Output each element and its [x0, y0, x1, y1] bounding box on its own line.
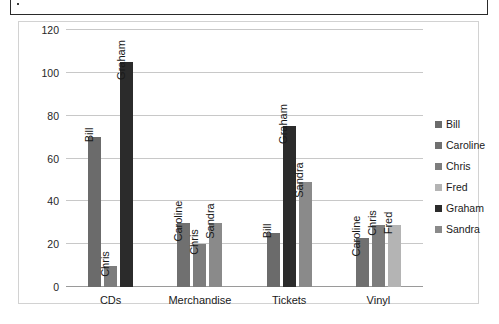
scan-artifact-box — [10, 0, 488, 15]
legend-item-fred[interactable]: Fred — [435, 177, 497, 198]
bar-label-cds-bill: Bill — [84, 128, 95, 143]
bar-label-vinyl-caroline: Caroline — [351, 215, 362, 256]
bar-label-vinyl-chris: Chris — [367, 210, 378, 236]
category-label-merchandise: Merchandise — [168, 294, 231, 306]
bar-label-cds-chris: Chris — [100, 251, 111, 277]
bar-label-tickets-sandra: Sandra — [294, 162, 305, 197]
bar-label-tickets-graham: Graham — [278, 105, 289, 145]
bar-label-merchandise-sandra: Sandra — [205, 203, 216, 238]
y-tick-label-60: 60 — [47, 153, 59, 164]
scan-artifact-dot — [17, 3, 19, 5]
bar-label-merchandise-chris: Chris — [189, 229, 200, 255]
legend-swatch-icon-bill — [435, 121, 442, 128]
bar-label-vinyl-fred: Fred — [383, 212, 394, 235]
chart-container: 020406080100120 BillChrisGrahamCarolineC… — [18, 21, 479, 304]
legend-label-chris: Chris — [446, 161, 471, 172]
category-label-cds: CDs — [100, 294, 121, 306]
legend-item-graham[interactable]: Graham — [435, 198, 497, 219]
legend-label-graham: Graham — [446, 203, 484, 214]
legend-swatch-icon-caroline — [435, 142, 442, 149]
legend-swatch-icon-chris — [435, 163, 442, 170]
legend-swatch-icon-sandra — [435, 226, 442, 233]
bar-tickets-sandra[interactable]: Sandra — [299, 182, 312, 287]
bar-vinyl-caroline[interactable]: Caroline — [356, 238, 369, 287]
bar-cds-chris[interactable]: Chris — [104, 266, 117, 287]
legend-label-bill: Bill — [446, 119, 460, 130]
bar-label-tickets-bill: Bill — [262, 224, 273, 239]
legend-label-sandra: Sandra — [446, 224, 480, 235]
y-tick-label-20: 20 — [47, 239, 59, 250]
legend-item-bill[interactable]: Bill — [435, 114, 497, 135]
category-label-tickets: Tickets — [272, 294, 306, 306]
legend-swatch-icon-graham — [435, 205, 442, 212]
y-tick-label-120: 120 — [41, 25, 59, 36]
bar-merchandise-sandra[interactable]: Sandra — [209, 223, 222, 287]
y-tick-label-80: 80 — [47, 110, 59, 121]
chart-legend: BillCarolineChrisFredGrahamSandra — [435, 114, 497, 240]
y-tick-label-40: 40 — [47, 196, 59, 207]
bar-merchandise-chris[interactable]: Chris — [193, 244, 206, 287]
y-axis: 020406080100120 — [19, 30, 59, 287]
bar-label-cds-graham: Graham — [116, 40, 127, 80]
y-tick-label-100: 100 — [41, 68, 59, 79]
category-label-vinyl: Vinyl — [367, 294, 391, 306]
legend-label-caroline: Caroline — [446, 140, 485, 151]
legend-item-sandra[interactable]: Sandra — [435, 219, 497, 240]
legend-swatch-icon-fred — [435, 184, 442, 191]
y-tick-label-0: 0 — [53, 282, 59, 293]
legend-label-fred: Fred — [446, 182, 468, 193]
bar-vinyl-fred[interactable]: Fred — [388, 225, 401, 287]
gridline-120 — [66, 29, 423, 30]
legend-item-caroline[interactable]: Caroline — [435, 135, 497, 156]
plot-area: BillChrisGrahamCarolineChrisSandraBillGr… — [66, 30, 423, 287]
bar-cds-graham[interactable]: Graham — [120, 62, 133, 287]
bar-tickets-bill[interactable]: Bill — [267, 233, 280, 287]
bar-label-merchandise-caroline: Caroline — [173, 200, 184, 241]
legend-item-chris[interactable]: Chris — [435, 156, 497, 177]
bar-tickets-graham[interactable]: Graham — [283, 126, 296, 287]
